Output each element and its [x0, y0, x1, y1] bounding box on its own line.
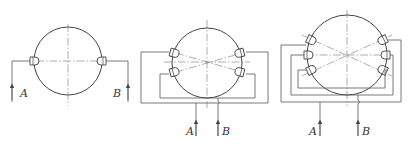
nozzle-icon	[30, 57, 39, 65]
inlet-b-label: B	[112, 87, 121, 100]
nozzle-icon	[234, 67, 245, 77]
inlet-b-label: B	[361, 125, 370, 138]
inlet-a-label: A	[19, 87, 28, 100]
supply-loop-inner	[160, 74, 255, 98]
nozzle-icon	[169, 67, 180, 77]
inlet-a-label: A	[185, 125, 194, 138]
panel-four-nozzle: A B	[141, 20, 268, 138]
nozzle-icon	[377, 35, 389, 46]
nozzle-arrangement-diagram: A B A B	[0, 0, 416, 147]
panel-two-nozzle: A B	[12, 24, 128, 106]
nozzle-icon	[304, 51, 313, 59]
nozzle-icon	[381, 51, 390, 59]
nozzle-icon	[97, 57, 106, 65]
inlet-b-label: B	[221, 125, 230, 138]
nozzle-icon	[169, 48, 180, 58]
supply-loop-middle	[291, 55, 393, 95]
nozzle-icon	[234, 48, 245, 58]
nozzle-icon	[306, 35, 318, 46]
panel-six-nozzle: A B	[281, 10, 401, 138]
inlet-a-label: A	[308, 125, 317, 138]
